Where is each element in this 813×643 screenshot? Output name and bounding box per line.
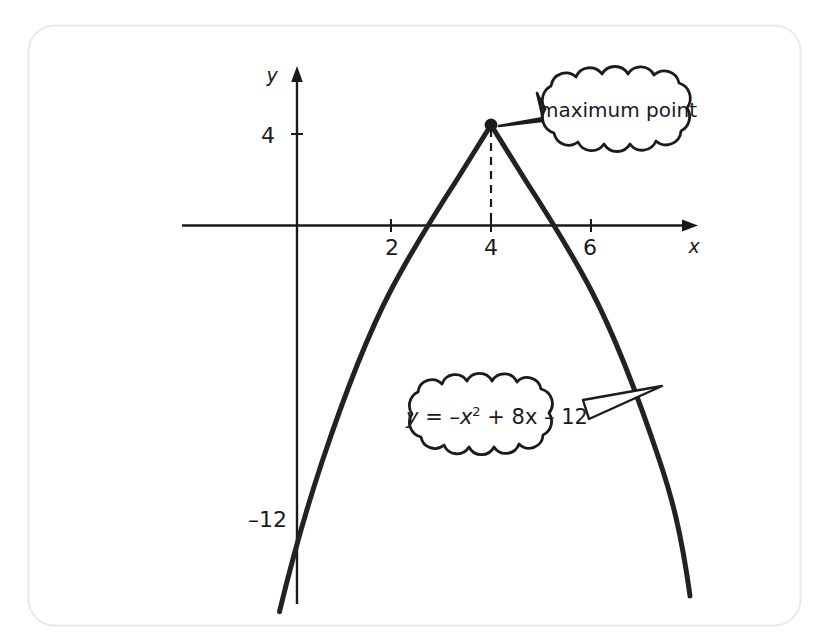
equation-callout-label: y = –x2 + 8x – 12 [405,404,588,429]
equation-term-rest: + 8x – 12 [481,405,588,429]
x-tick-label-2: 2 [385,235,399,260]
x-tick-label-4: 4 [484,235,498,260]
equation-term-equals: = [418,405,449,429]
x-tick-label-6: 6 [583,235,597,260]
y-axis-label: y [265,64,278,86]
maximum-point-marker [485,119,498,132]
x-axis-label: x [687,235,700,257]
y-tick-label-minus-12: –12 [248,507,287,532]
equation-term-minus-x: –x [449,405,473,429]
quadratic-graph-figure: y x 2 4 6 4 –12 maximum point [0,0,813,643]
maximum-point-callout-label: maximum point [539,98,697,122]
equation-term-y: y [405,405,419,429]
figure-container: y x 2 4 6 4 –12 maximum point [0,0,813,643]
y-tick-label-4: 4 [261,123,275,148]
equation-term-exponent: 2 [472,404,480,419]
